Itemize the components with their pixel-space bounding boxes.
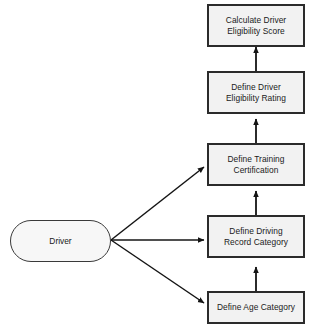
node-define-training-certification[interactable]: Define Training Certification [207,143,305,186]
edge-driver-to-age-category [111,240,204,303]
node-calculate-driver-eligibility-score[interactable]: Calculate Driver Eligibility Score [207,4,305,47]
edge-driver-to-training-certification [111,167,204,240]
node-define-age-category-label: Define Age Category [214,302,298,313]
node-define-driving-record-category-label: Define Driving Record Category [221,226,291,247]
node-define-age-category[interactable]: Define Age Category [207,291,305,324]
node-calculate-driver-eligibility-score-label: Calculate Driver Eligibility Score [223,15,289,36]
node-driver[interactable]: Driver [10,220,111,262]
node-define-driver-eligibility-rating-label: Define Driver Eligibility Rating [223,82,289,103]
diagram-canvas: Driver Calculate Driver Eligibility Scor… [0,0,315,330]
node-define-driver-eligibility-rating[interactable]: Define Driver Eligibility Rating [207,71,305,114]
node-driver-label: Driver [49,236,71,247]
node-define-training-certification-label: Define Training Certification [224,154,287,175]
node-define-driving-record-category[interactable]: Define Driving Record Category [207,215,305,258]
